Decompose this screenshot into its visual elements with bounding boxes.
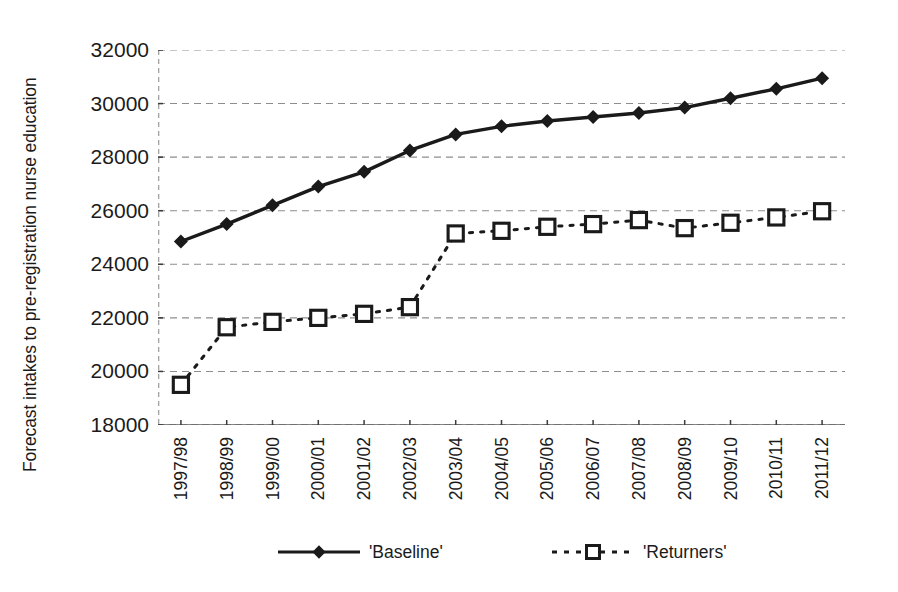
x-tick-label: 1999/00 [262,437,283,500]
data-point-marker [220,217,234,231]
data-point-marker [815,71,829,85]
data-point-marker [495,119,509,133]
x-tick-label: 2006/07 [583,437,604,500]
data-point-marker [311,310,326,325]
data-point-marker [403,143,417,157]
legend-item-baseline[interactable]: 'Baseline' [276,537,443,567]
data-point-marker [586,217,601,232]
data-point-marker [678,101,692,115]
data-point-marker [632,106,646,120]
x-tick-label: 2002/03 [399,437,420,500]
y-tick-label: 26000 [91,199,149,223]
y-tick-label: 28000 [91,145,149,169]
data-point-marker [402,300,417,315]
y-tick-label: 18000 [91,413,149,437]
x-tick-label: 2000/01 [308,437,329,500]
plot-canvas [158,50,845,425]
data-point-marker [631,212,646,227]
x-tick-label: 2005/06 [537,437,558,500]
data-point-marker [677,221,692,236]
data-point-marker [173,377,188,392]
data-point-marker [540,114,554,128]
x-tick-label: 2011/12 [812,437,833,499]
data-point-marker [449,127,463,141]
chart-figure: Forecast intakes to pre-registration nur… [0,0,898,592]
legend-item-returners[interactable]: 'Returners' [550,537,727,567]
x-tick-label: 2008/09 [674,437,695,500]
legend-swatch-returners [550,541,636,563]
data-point-marker [815,204,830,219]
chart-legend: 'Baseline' 'Returners' [158,537,845,571]
data-point-marker [174,235,188,249]
x-tick-label: 2007/08 [628,437,649,500]
data-point-marker [448,226,463,241]
y-tick-label: 24000 [91,252,149,276]
y-axis-title: Forecast intakes to pre-registration nur… [10,12,50,472]
x-tick-label: 1997/98 [170,437,191,500]
legend-label-baseline: 'Baseline' [369,542,443,563]
data-point-marker [769,82,783,96]
y-tick-label: 22000 [91,306,149,330]
legend-label-returners: 'Returners' [643,542,727,563]
y-tick-label: 20000 [91,359,149,383]
data-point-marker [540,219,555,234]
x-tick-label: 2010/11 [766,437,787,499]
legend-swatch-baseline [276,541,362,563]
y-tick-label: 32000 [91,38,149,62]
x-tick-label: 1998/99 [216,437,237,500]
data-point-marker [586,110,600,124]
data-point-marker [494,223,509,238]
x-tick-label: 2004/05 [491,437,512,500]
y-tick-label: 30000 [91,92,149,116]
x-tick-label: 2001/02 [354,437,375,500]
plot-area: 1800020000220002400026000280003000032000… [158,50,845,425]
data-point-marker [357,165,371,179]
data-point-marker [311,180,325,194]
data-point-marker [769,210,784,225]
data-point-marker [219,320,234,335]
x-tick-label: 2003/04 [445,437,466,500]
data-point-marker [357,306,372,321]
data-point-marker [265,314,280,329]
x-tick-label: 2009/10 [720,437,741,500]
data-point-marker [723,215,738,230]
